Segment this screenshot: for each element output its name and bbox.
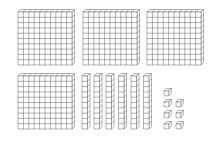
hundreds-flat-2: [83, 10, 140, 66]
unit-cube-2: [164, 100, 171, 107]
tens-rod-1: [82, 74, 90, 130]
unit-cube-1: [164, 89, 171, 96]
unit-cube-7: [176, 122, 183, 129]
unit-cube-3: [176, 100, 183, 107]
tens-rod-2: [94, 74, 102, 130]
unit-cube-4: [164, 111, 171, 118]
hundreds-flat-1: [18, 10, 75, 66]
unit-cube-6: [164, 122, 171, 129]
tens-rod-4: [119, 74, 127, 130]
hundreds-flat-3: [147, 10, 204, 66]
tens-rod-5: [131, 74, 139, 130]
base-ten-blocks-diagram: [0, 0, 215, 143]
tens-rod-3: [106, 74, 114, 130]
unit-cube-5: [176, 111, 183, 118]
hundreds-flat-4: [18, 74, 75, 130]
tens-rod-6: [144, 74, 152, 130]
